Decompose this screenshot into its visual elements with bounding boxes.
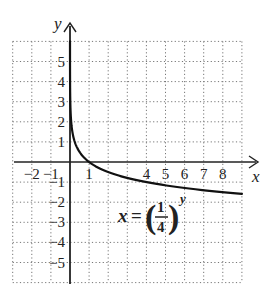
x-tick-label: 1	[85, 166, 93, 182]
y-tick-label: 4	[58, 74, 66, 90]
y-tick-label: −4	[49, 234, 65, 250]
x-tick-label: 5	[162, 166, 170, 182]
x-tick-label: −2	[24, 166, 40, 182]
x-tick-label: 6	[181, 166, 189, 182]
x-axis-label: x	[251, 167, 260, 186]
graph: x y −2−1145678 54321−1−2−3−4−5 x = ( 1 4…	[0, 0, 269, 286]
y-tick-label: −3	[49, 214, 65, 230]
curve-series	[70, 41, 242, 193]
x-tick-label: 8	[219, 166, 227, 182]
equation-numerator: 1	[157, 199, 165, 215]
y-tick-label: 2	[58, 114, 66, 130]
equation-left-paren: (	[145, 198, 156, 236]
y-tick-label: −1	[49, 174, 65, 190]
equation-equals: =	[131, 205, 142, 226]
y-tick-label: −2	[49, 194, 65, 210]
equation-lhs: x	[117, 205, 128, 226]
x-tick-label: 7	[200, 166, 208, 182]
y-tick-label: 3	[58, 94, 66, 110]
x-tick-label: 4	[143, 166, 151, 182]
y-tick-label: −5	[49, 255, 65, 271]
y-axis-label: y	[52, 14, 62, 33]
equation-exponent: y	[178, 191, 186, 206]
equation-right-paren: )	[168, 198, 179, 236]
y-tick-label: 1	[58, 134, 66, 150]
equation-denominator: 4	[157, 219, 165, 235]
y-tick-label: 5	[58, 54, 66, 70]
